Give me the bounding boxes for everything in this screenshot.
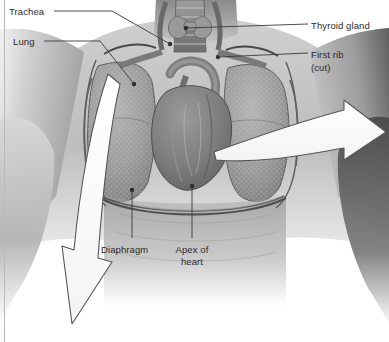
anatomy-figure: Trachea Lung Thyroid gland First rib (cu… bbox=[0, 0, 389, 342]
label-first-rib-cut: (cut) bbox=[311, 62, 331, 74]
label-diaphragm: Diaphragm bbox=[101, 244, 148, 256]
label-trachea: Trachea bbox=[9, 6, 44, 18]
label-first-rib: First rib bbox=[311, 49, 344, 61]
label-lung: Lung bbox=[13, 36, 35, 48]
left-edge-rule bbox=[4, 0, 5, 342]
label-thyroid-gland: Thyroid gland bbox=[311, 20, 370, 32]
label-apex-of-heart-line1: Apex of bbox=[166, 244, 218, 256]
label-apex-of-heart-line2: heart bbox=[166, 256, 218, 268]
